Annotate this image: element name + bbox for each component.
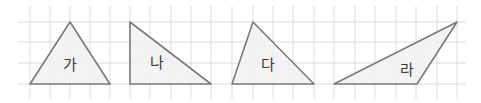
grid-diagram (0, 0, 481, 103)
label-ga: 가 (63, 58, 77, 73)
label-ra: 라 (400, 63, 414, 78)
triangles (30, 22, 457, 84)
triangle-ga (30, 22, 110, 84)
label-na: 나 (150, 56, 164, 71)
label-da: 다 (261, 58, 275, 73)
